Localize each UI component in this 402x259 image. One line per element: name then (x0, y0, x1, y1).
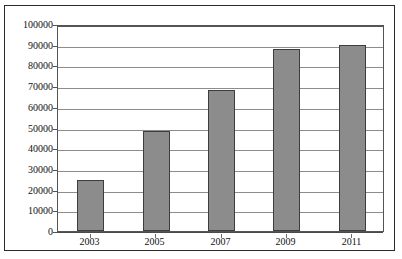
figure-frame: 1000009000080000700006000050000400003000… (4, 5, 395, 251)
y-tick-label-100000: 100000 (5, 20, 53, 30)
bar-2007[interactable] (208, 90, 235, 231)
bar-2009[interactable] (273, 49, 300, 231)
x-tick-mark-2003 (90, 234, 91, 238)
x-tick-mark-2011 (351, 234, 352, 238)
bars-layer (58, 26, 383, 231)
gridline-0 (58, 232, 383, 233)
bar-2003[interactable] (77, 180, 104, 231)
y-tick-label-0: 0 (5, 227, 53, 237)
bar-2005[interactable] (143, 131, 170, 231)
y-tick-label-60000: 60000 (5, 103, 53, 113)
y-tick-label-50000: 50000 (5, 124, 53, 134)
y-tick-label-20000: 20000 (5, 186, 53, 196)
plot-area (57, 25, 384, 232)
bar-2011[interactable] (339, 45, 366, 231)
y-tick-label-70000: 70000 (5, 82, 53, 92)
x-tick-mark-2007 (221, 234, 222, 238)
y-tick-label-40000: 40000 (5, 144, 53, 154)
y-tick-label-90000: 90000 (5, 41, 53, 51)
y-tick-label-80000: 80000 (5, 61, 53, 71)
x-tick-mark-2005 (155, 234, 156, 238)
y-tick-label-10000: 10000 (5, 206, 53, 216)
y-tick-label-30000: 30000 (5, 165, 53, 175)
x-axis-tick-labels: 20032005200720092011 (57, 234, 384, 252)
x-tick-mark-2009 (286, 234, 287, 238)
